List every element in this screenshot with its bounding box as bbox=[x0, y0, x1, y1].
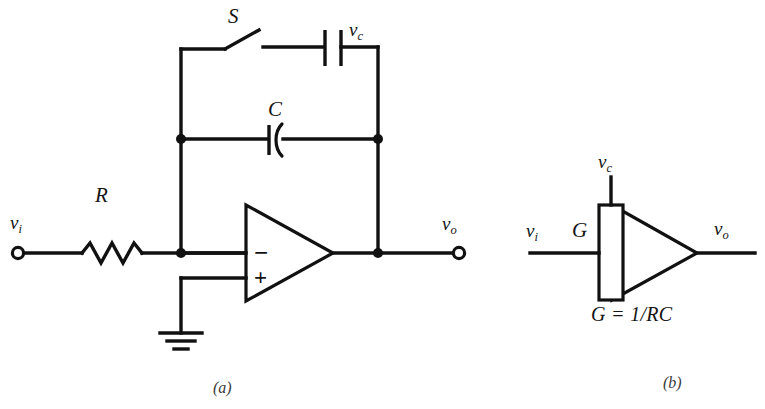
node-dot-output bbox=[373, 248, 383, 258]
node-dot-output-feedback-top bbox=[373, 134, 383, 144]
switch-s-blade bbox=[225, 30, 259, 49]
circuit-drawing bbox=[0, 0, 765, 409]
opamp-inverting-sign: − bbox=[254, 240, 268, 265]
resistor-r-symbol bbox=[82, 243, 142, 263]
label-capacitor-c: C bbox=[268, 99, 282, 120]
label-switch-s: S bbox=[228, 6, 239, 27]
figure-root: vi R C S vc vo − + (a) vi G vc vo G = 1/… bbox=[0, 0, 765, 409]
opamp-noninverting-sign: + bbox=[254, 266, 267, 289]
label-output-voltage: vo bbox=[442, 214, 457, 233]
integrator-gain-box bbox=[599, 205, 623, 300]
panel-b-label-output: vo bbox=[714, 219, 729, 238]
node-dot-inverting-feedback-top bbox=[176, 134, 186, 144]
caption-panel-b: (b) bbox=[663, 374, 682, 392]
caption-panel-a: (a) bbox=[213, 379, 232, 397]
panel-b-label-control: vc bbox=[598, 152, 612, 171]
capacitor-c-right-plate bbox=[276, 124, 282, 156]
node-dot-inverting-input bbox=[176, 248, 186, 258]
panel-b-label-input: vi bbox=[526, 221, 538, 240]
label-reset-source-voltage: vc bbox=[349, 20, 363, 39]
input-terminal-ring bbox=[12, 247, 23, 258]
panel-b-gain-equation: G = 1/RC bbox=[591, 304, 672, 324]
output-terminal-ring bbox=[453, 247, 464, 258]
panel-a-graphics bbox=[12, 30, 464, 349]
label-resistor-r: R bbox=[95, 185, 108, 206]
label-input-voltage: vi bbox=[10, 213, 22, 232]
integrator-triangle bbox=[612, 205, 697, 300]
panel-b-label-gain: G bbox=[572, 220, 587, 241]
